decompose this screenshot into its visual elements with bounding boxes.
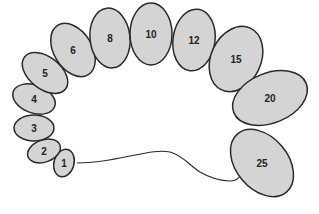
segment-label: 15: [230, 54, 242, 65]
connector-line: [77, 151, 240, 181]
segment-label: 6: [70, 45, 76, 56]
segment-25: 25: [218, 117, 307, 209]
segment-label: 3: [31, 123, 37, 134]
segment-label: 20: [264, 93, 276, 104]
segment-label: 5: [42, 68, 48, 79]
segment-label: 1: [61, 158, 67, 169]
segment-label: 10: [145, 29, 157, 40]
segment-label: 25: [256, 158, 268, 169]
segment-label: 2: [41, 146, 47, 157]
segment-3: 3: [14, 115, 54, 141]
segmented-arc-diagram: 12345681012152025: [0, 0, 319, 214]
segment-label: 4: [31, 94, 37, 105]
segment-label: 8: [107, 33, 113, 44]
segment-label: 12: [188, 35, 200, 46]
segments-group: 12345681012152025: [9, 3, 316, 209]
segment-10: 10: [130, 3, 172, 65]
